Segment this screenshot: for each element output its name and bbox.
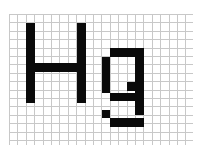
grid-line-horizontal xyxy=(9,48,193,49)
glyph-stroke xyxy=(102,57,110,93)
grid-line-vertical xyxy=(43,14,44,145)
grid-line-vertical xyxy=(185,14,186,145)
grid-line-vertical xyxy=(68,14,69,145)
grid-line-horizontal xyxy=(9,115,193,116)
grid-line-horizontal xyxy=(9,140,193,141)
grid-line-vertical xyxy=(51,14,52,145)
grid-line-horizontal xyxy=(9,73,193,74)
grid-line-vertical xyxy=(17,14,18,145)
grid-line-horizontal xyxy=(9,56,193,57)
glyph-stroke xyxy=(102,110,110,118)
glyph-stroke xyxy=(110,48,135,57)
grid-line-vertical xyxy=(177,14,178,145)
glyph-stroke xyxy=(26,23,35,103)
grid-line-vertical xyxy=(59,14,60,145)
grid-line-horizontal xyxy=(9,98,193,99)
glyph-stroke xyxy=(77,23,86,103)
grid-line-horizontal xyxy=(9,123,193,124)
grid-line-vertical xyxy=(152,14,153,145)
glyph-stroke xyxy=(110,93,135,101)
grid-line-horizontal xyxy=(9,14,193,15)
glyph-stroke xyxy=(35,63,77,72)
glyph-stroke xyxy=(127,82,135,91)
grid-line-horizontal xyxy=(9,22,193,23)
grid-line-vertical xyxy=(93,14,94,145)
grid-line-horizontal xyxy=(9,90,193,91)
grid-line-horizontal xyxy=(9,132,193,133)
glyph-stroke xyxy=(110,118,144,127)
glyph-stroke xyxy=(135,48,144,115)
grid-line-vertical xyxy=(160,14,161,145)
grid-line-horizontal xyxy=(9,39,193,40)
pixel-grid-figure: Hg xyxy=(0,0,201,151)
grid-line-vertical xyxy=(169,14,170,145)
grid-line-horizontal xyxy=(9,81,193,82)
grid-line-horizontal xyxy=(9,31,193,32)
grid-line-vertical xyxy=(9,14,10,145)
grid-line-horizontal xyxy=(9,106,193,107)
